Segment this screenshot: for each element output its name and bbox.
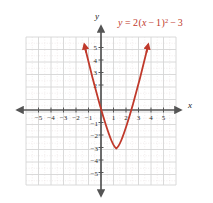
y-tick-label: 4 [94,57,98,65]
curve-arrow-left [84,45,86,53]
graph-figure: −5 −4 −3 −2 −1 1 2 3 4 5 5 4 3 [0,0,213,203]
y-tick-label: −5 [91,170,99,178]
coordinate-plane: −5 −4 −3 −2 −1 1 2 3 4 5 5 4 3 [0,0,213,203]
x-tick-label: 4 [149,114,153,122]
y-tick-label: 3 [94,69,98,77]
equation-label: y=2(x−1)2−3 [117,17,183,30]
x-tick-label: −5 [35,114,43,122]
x-tick-label: 5 [162,114,166,122]
equation-exponent: 2 [165,17,168,24]
y-tick-label: −1 [91,120,99,128]
x-axis-label: x [187,100,192,110]
x-tick-label: −2 [72,114,80,122]
equation-h-value: 1 [156,17,161,28]
equation-minus-h: − [148,17,154,28]
y-axis-label: y [94,11,99,21]
y-tick-label: −2 [91,132,99,140]
y-tick-label: 5 [94,44,98,52]
curve-arrow-right [146,45,148,53]
x-tick-label: 3 [137,114,141,122]
equation-k-value: 3 [178,17,183,28]
x-tick-label: 1 [112,114,116,122]
y-tick-label: −4 [91,157,99,165]
x-tick-label: −3 [60,114,68,122]
equation-coefficient: 2 [133,17,138,28]
x-tick-label: −4 [47,114,55,122]
equation-variable: x [141,17,147,28]
y-tick-label: −3 [91,145,99,153]
equation-lhs: y [117,17,123,28]
equation-equals: = [125,17,131,28]
equation-minus-k: − [170,17,176,28]
